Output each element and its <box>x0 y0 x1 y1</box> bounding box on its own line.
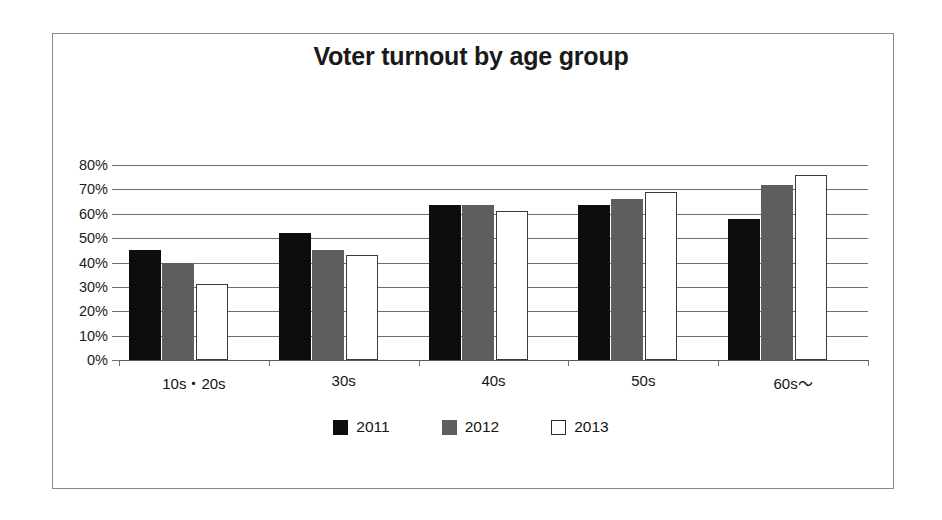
bar-group <box>568 165 718 360</box>
bar-2011-2 <box>279 233 311 360</box>
plot-area: 80%70%60%50%40%30%20%10%0% 10s・20s30s40s… <box>119 165 868 360</box>
x-axis-tick-mark <box>119 360 120 366</box>
y-axis-label: 30% <box>79 279 108 295</box>
x-axis-tick-mark <box>718 360 719 366</box>
legend-item-2012: 2012 <box>442 418 499 436</box>
bar-2012-3 <box>462 205 494 360</box>
bar-2011-4 <box>578 205 610 360</box>
y-axis-tick-mark <box>112 360 119 361</box>
y-axis-label: 20% <box>79 303 108 319</box>
legend-label: 2012 <box>465 418 499 436</box>
bar-group <box>419 165 569 360</box>
bar-2013-5 <box>795 175 827 360</box>
y-axis-tick-mark <box>112 263 119 264</box>
bar-group <box>269 165 419 360</box>
y-axis-label: 10% <box>79 328 108 344</box>
bar-2011-5 <box>728 219 760 360</box>
x-axis-label: 60s〜 <box>718 372 868 393</box>
legend-swatch-icon <box>551 420 566 435</box>
bar-group <box>119 165 269 360</box>
y-axis-tick-mark <box>112 287 119 288</box>
y-axis-tick-mark <box>112 238 119 239</box>
legend-label: 2013 <box>574 418 608 436</box>
bar-2011-3 <box>429 205 461 360</box>
x-axis-tick-mark <box>269 360 270 366</box>
x-axis-tick-mark <box>868 360 869 366</box>
y-axis-label: 50% <box>79 230 108 246</box>
x-axis-label: 40s <box>419 372 569 389</box>
bar-2011-1 <box>129 250 161 360</box>
bar-2012-2 <box>312 250 344 360</box>
x-axis-line <box>119 360 868 361</box>
bar-2012-5 <box>761 185 793 361</box>
x-axis-label: 50s <box>568 372 718 389</box>
x-axis-label: 30s <box>269 372 419 389</box>
chart-legend: 201120122013 <box>0 418 942 436</box>
y-axis-tick-mark <box>112 165 119 166</box>
chart-figure: Voter turnout by age group 80%70%60%50%4… <box>0 0 942 520</box>
legend-swatch-icon <box>333 420 348 435</box>
bar-2013-2 <box>346 255 378 360</box>
x-axis-tick-mark <box>568 360 569 366</box>
bar-2012-4 <box>611 199 643 360</box>
legend-item-2013: 2013 <box>551 418 608 436</box>
y-axis-label: 80% <box>79 157 108 173</box>
y-axis-label: 40% <box>79 255 108 271</box>
legend-item-2011: 2011 <box>333 418 389 436</box>
legend-swatch-icon <box>442 420 457 435</box>
x-axis-label: 10s・20s <box>119 372 269 393</box>
bar-2013-4 <box>645 192 677 360</box>
y-axis-tick-mark <box>112 189 119 190</box>
y-axis-label: 60% <box>79 206 108 222</box>
bar-2012-1 <box>162 263 194 361</box>
bar-2013-3 <box>496 211 528 360</box>
y-axis-tick-mark <box>112 336 119 337</box>
y-axis-label: 0% <box>87 352 108 368</box>
bar-group <box>718 165 868 360</box>
chart-title: Voter turnout by age group <box>0 42 942 71</box>
legend-label: 2011 <box>356 418 389 436</box>
x-axis-tick-mark <box>419 360 420 366</box>
bar-2013-1 <box>196 284 228 360</box>
y-axis-label: 70% <box>79 181 108 197</box>
y-axis-tick-mark <box>112 311 119 312</box>
y-axis-tick-mark <box>112 214 119 215</box>
